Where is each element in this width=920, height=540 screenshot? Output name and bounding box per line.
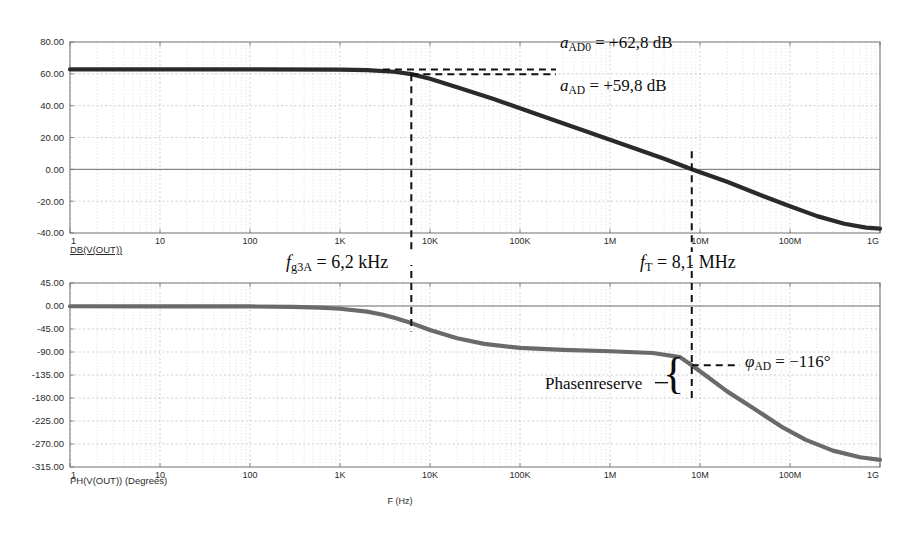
x-tick-label: 10K <box>422 470 438 480</box>
annotation-a-ad0: aAD0 = +62,8 dB <box>560 33 672 54</box>
x-tick-label: 1K <box>334 236 345 246</box>
annotation-phi-ad-subscript: AD <box>754 360 771 373</box>
phase-canvas: 45.000.00-45.00-90.00-135.00-180.00-225.… <box>0 265 920 540</box>
bode-plot-figure: 80.0060.0040.0020.000.00-20.00-40.001101… <box>0 0 920 540</box>
x-tick-label: 1G <box>867 470 879 480</box>
x-tick-label: 100K <box>509 236 530 246</box>
magnitude-canvas: 80.0060.0040.0020.000.00-20.00-40.001101… <box>0 0 920 265</box>
y-tick-label: -180.00 <box>32 392 64 403</box>
y-tick-label: -40.00 <box>37 227 64 238</box>
x-tick-label: 1M <box>604 470 617 480</box>
y-tick-label: -90.00 <box>37 346 64 357</box>
x-tick-label: 10K <box>422 236 438 246</box>
y-tick-label: 40.00 <box>40 100 64 111</box>
x-tick-label: 10 <box>155 236 165 246</box>
x-tick-label: 100 <box>242 470 257 480</box>
x-tick-label: 1M <box>604 236 617 246</box>
annotation-a-ad-symbol: a <box>560 76 569 95</box>
annotation-a-ad0-subscript: AD0 <box>569 41 591 54</box>
annotation-a-ad-subscript: AD <box>569 84 586 97</box>
y-tick-label: -20.00 <box>37 196 64 207</box>
annotation-phi-ad-symbol: φ <box>745 352 754 371</box>
x-tick-label: 10M <box>691 236 709 246</box>
y-tick-label: 60.00 <box>40 68 64 79</box>
y-tick-label: 80.00 <box>40 36 64 47</box>
x-tick-label: 100 <box>242 236 257 246</box>
x-tick-label: 100M <box>779 236 802 246</box>
x-tick-label: 1G <box>867 236 879 246</box>
x-tick-label: 10M <box>691 470 709 480</box>
y-tick-label: 0.00 <box>46 300 65 311</box>
annotation-phi-ad-value: = −116° <box>775 352 830 371</box>
y-tick-label: -315.00 <box>32 461 64 472</box>
magnitude-trace <box>70 69 880 228</box>
phase-reserve-label: Phasenreserve <box>545 374 642 394</box>
y-tick-label: -135.00 <box>32 369 64 380</box>
y-tick-label: -45.00 <box>37 323 64 334</box>
x-tick-label: 1K <box>334 470 345 480</box>
x-tick-label: 100K <box>509 470 530 480</box>
annotation-phi-ad: φAD = −116° <box>745 352 830 373</box>
phase-plot: 45.000.00-45.00-90.00-135.00-180.00-225.… <box>0 265 920 540</box>
phase-trace-label: PH(V(OUT)) (Degrees) <box>70 475 167 486</box>
x-tick-label: 100M <box>779 470 802 480</box>
y-tick-label: 45.00 <box>40 277 64 288</box>
annotation-a-ad0-value: = +62,8 dB <box>595 33 672 52</box>
annotation-a-ad0-symbol: a <box>560 33 569 52</box>
magnitude-trace-label: DB(V(OUT)) <box>70 244 122 255</box>
annotation-a-ad: aAD = +59,8 dB <box>560 76 667 97</box>
y-tick-label: -225.00 <box>32 415 64 426</box>
y-tick-label: -270.00 <box>32 438 64 449</box>
annotation-a-ad-value: = +59,8 dB <box>589 76 666 95</box>
y-tick-label: 20.00 <box>40 132 64 143</box>
y-tick-label: 0.00 <box>46 164 65 175</box>
magnitude-plot: 80.0060.0040.0020.000.00-20.00-40.001101… <box>0 0 920 265</box>
phase-x-axis-label: F (Hz) <box>355 496 445 506</box>
phase-reserve-brace: { <box>663 352 684 396</box>
